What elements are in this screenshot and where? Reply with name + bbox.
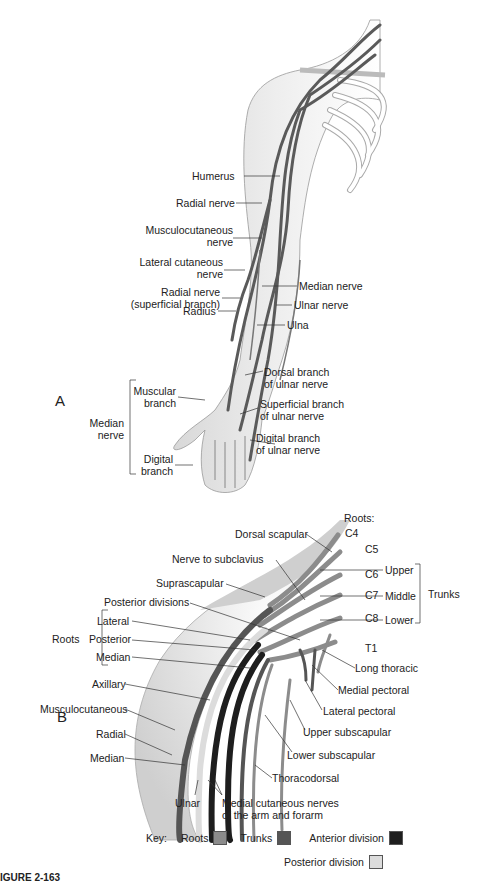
key-roots-swatch [213,831,227,845]
label-suprascapular: Suprascapular [156,577,224,589]
label-root-c7: C7 [365,589,378,601]
label-lateral-pectoral: Lateral pectoral [323,705,395,717]
label-median-nerve: Median nerve [299,280,363,292]
label-root-c6: C6 [365,568,378,580]
label-musculocutaneous-nerve: Musculocutaneousnerve [140,224,233,248]
label-digital-branch: Digitalbranch [128,453,173,477]
label-radius: Radius [183,305,216,317]
label-radial: Radial [96,728,126,740]
label-upper-subscapular: Upper subscapular [303,726,391,738]
label-trunk-middle: Middle [385,590,416,602]
label-roots-header: Roots: [344,512,374,524]
label-ulna: Ulna [287,319,309,331]
key-anterior-label: Anterior division [309,832,384,844]
label-humerus: Humerus [192,170,235,182]
label-root-c5: C5 [365,543,378,555]
label-ulnar: Ulnar [175,797,200,809]
key-roots-label: Roots [181,832,208,844]
label-muscular-branch: Muscularbranch [120,385,176,409]
label-musculocutaneous: Musculocutaneous [40,703,128,715]
label-cord-lateral: Lateral [97,615,129,627]
label-superficial-branch-ulnar: Superficial branchof ulnar nerve [260,398,344,422]
plexus-figure [135,520,350,840]
figure-caption: IGURE 2-163 [0,872,60,883]
key-trunks-swatch [277,831,291,845]
label-nerve-to-subclavius: Nerve to subclavius [172,553,264,565]
label-axillary: Axillary [92,678,126,690]
label-trunks-group: Trunks [428,588,460,600]
key-row-1: Key: Roots Trunks Anterior division [146,831,403,845]
label-cord-median: Median [96,651,130,663]
key-trunks-label: Trunks [240,832,272,844]
label-medial-cutaneous: Medial cutaneous nervesof the arm and fo… [222,797,339,821]
label-root-c4: C4 [345,527,358,539]
label-roots-group: Roots [52,633,79,645]
key-posterior-swatch [369,855,383,869]
label-lateral-cutaneous-nerve: Lateral cutaneousnerve [125,256,223,280]
label-trunk-upper: Upper [385,564,414,576]
label-lower-subscapular: Lower subscapular [287,749,375,761]
label-radial-nerve: Radial nerve [176,197,235,209]
key-anterior-swatch [389,831,403,845]
label-dorsal-branch-ulnar: Dorsal branchof ulnar nerve [264,366,329,390]
label-long-thoracic: Long thoracic [355,662,418,674]
key-title: Key: [146,832,167,844]
label-cord-posterior: Posterior [89,633,131,645]
label-digital-branch-ulnar: Digital branchof ulnar nerve [256,432,320,456]
key-posterior-label: Posterior division [284,856,364,868]
label-thoracodorsal: Thoracodorsal [272,772,339,784]
label-trunk-lower: Lower [385,614,414,626]
label-posterior-divisions: Posterior divisions [104,596,189,608]
label-root-c8: C8 [365,612,378,624]
label-median: Median [90,752,124,764]
key-row-2: Posterior division [284,855,383,869]
label-medial-pectoral: Medial pectoral [338,684,409,696]
label-dorsal-scapular: Dorsal scapular [235,528,308,540]
label-median-nerve-group: Mediannerve [80,417,124,441]
label-ulnar-nerve: Ulnar nerve [294,299,348,311]
label-root-t1: T1 [365,642,377,654]
panel-a-letter: A [55,392,65,409]
